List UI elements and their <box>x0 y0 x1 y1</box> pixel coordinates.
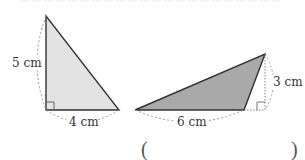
figure-area: 5 cm 4 cm 6 cm 3 cm ( ) <box>0 0 305 160</box>
height-label-3cm: 3 cm <box>273 75 303 89</box>
right-triangle: 6 cm 3 cm <box>135 54 305 129</box>
answer-blank[interactable] <box>152 140 288 158</box>
left-triangle: 5 cm 4 cm <box>10 16 119 129</box>
right-angle-marker <box>257 102 265 110</box>
base-label-4cm: 4 cm <box>69 115 99 129</box>
triangles-diagram: 5 cm 4 cm 6 cm 3 cm <box>0 0 305 160</box>
answer-close-paren: ) <box>291 139 298 159</box>
height-label-5cm: 5 cm <box>12 56 42 70</box>
answer-open-paren: ( <box>141 139 148 159</box>
base-label-6cm: 6 cm <box>177 115 207 129</box>
cut-off-question-text <box>20 0 280 2</box>
